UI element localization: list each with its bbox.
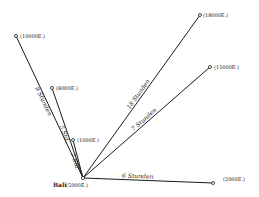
destination-point-r10000 — [15, 35, 18, 38]
destination-point-r8000 — [51, 87, 54, 90]
destination-point-r18000 — [199, 14, 202, 17]
duration-label-r10000: 8 Stunden — [34, 85, 54, 116]
destination-point-r1000 — [72, 139, 75, 142]
destination-label-r18000: (18000E.) — [203, 12, 228, 18]
duration-label-r18000: 18 Stunden — [125, 77, 151, 110]
destination-label-r2000: (2000E.) — [223, 176, 245, 182]
destination-label-r8000: (8000E.) — [56, 85, 78, 91]
duration-label-r8000: 5 Std. — [59, 124, 72, 143]
bali-point — [81, 176, 84, 179]
bali-elevation: (5000E.) — [66, 182, 88, 188]
destination-label-r15000: (15000E.) — [214, 64, 239, 70]
destination-point-r15000 — [209, 66, 212, 69]
destination-label-r1000: (1000E.) — [77, 137, 99, 143]
travel-time-diagram: 8 Stunden5 Std.2 Std.18 Stunden7 Stunden… — [0, 0, 259, 197]
route-line-r18000 — [83, 15, 200, 178]
destination-label-r10000: (10000E.) — [20, 33, 45, 39]
destination-point-r2000 — [212, 182, 215, 185]
duration-label-r15000: 7 Stunden — [129, 106, 157, 132]
duration-label-r1000: 2 Std. — [70, 151, 82, 171]
duration-label-r2000: 6 Stunden — [122, 172, 154, 180]
bali-center: Bali (5000E.) — [53, 176, 88, 188]
